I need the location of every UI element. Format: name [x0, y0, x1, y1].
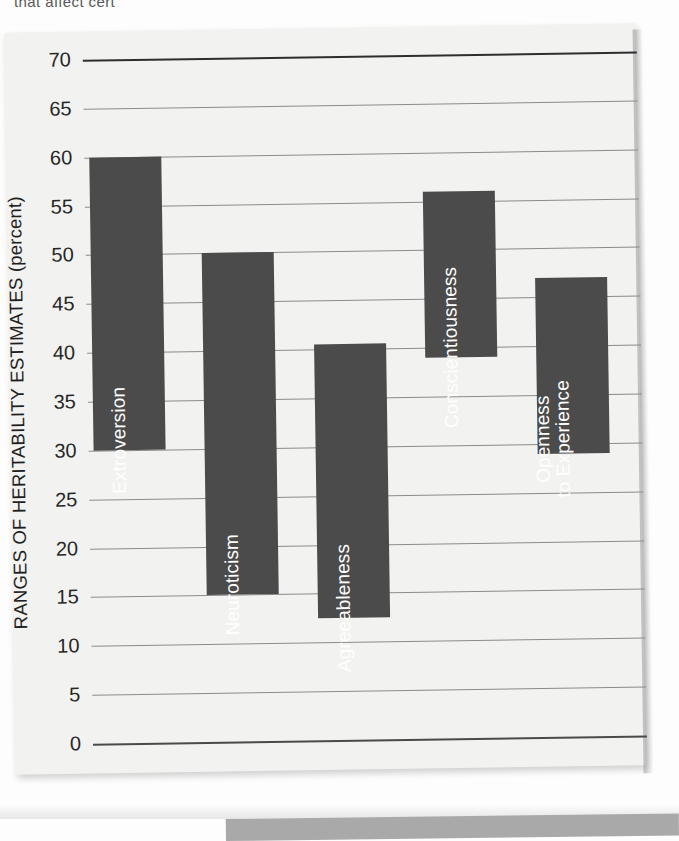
- bar-label-openness-to-experience: Opennessto Experience: [532, 380, 574, 498]
- bar-conscientiousness: Conscientiousness: [423, 190, 497, 357]
- bar-label-neuroticism: Neuroticism: [222, 534, 244, 636]
- y-tick-label-5: 5: [14, 684, 80, 708]
- bar-extroversion: Extroversion: [90, 156, 166, 450]
- y-tick-label-0: 0: [15, 732, 81, 756]
- gridline-65: [84, 100, 638, 109]
- y-tick-label-10: 10: [13, 635, 79, 659]
- y-tick-label-70: 70: [5, 48, 71, 72]
- bar-agreeableness: Agreeableness: [314, 344, 390, 619]
- gridline-5: [92, 687, 646, 696]
- y-axis-ticks: 0510152025303540455055606570: [4, 23, 664, 33]
- y-tick-label-65: 65: [5, 97, 71, 121]
- bar-label-agreeableness: Agreeableness: [333, 544, 355, 672]
- gridline-60: [84, 149, 638, 158]
- scanned-page: that affect cert 05101520253035404550556…: [0, 0, 679, 841]
- y-tick-label-60: 60: [6, 146, 72, 170]
- bars: ExtroversionNeuroticismAgreeablenessCons…: [4, 23, 664, 33]
- bar-label-conscientiousness: Conscientiousness: [440, 267, 463, 428]
- gridline-0: [93, 735, 647, 745]
- gridline-50: [86, 247, 640, 256]
- footer-band: [226, 813, 679, 841]
- gridline-55: [85, 198, 639, 207]
- bar-neuroticism: Neuroticism: [202, 252, 279, 595]
- gridline-10: [92, 638, 646, 647]
- cutoff-body-text: that affect cert: [14, 0, 115, 10]
- bar-openness-to-experience: Opennessto Experience: [535, 277, 610, 454]
- bar-chart: 0510152025303540455055606570 Extroversio…: [4, 23, 675, 793]
- gridline-70: [83, 52, 637, 62]
- gridlines: [4, 23, 664, 33]
- bar-label-extroversion: Extroversion: [109, 387, 131, 494]
